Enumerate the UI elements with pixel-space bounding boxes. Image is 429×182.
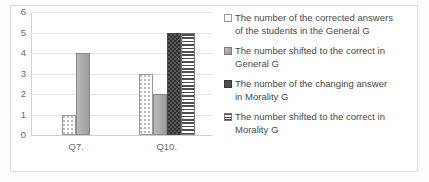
y-axis-tick-label: 0	[21, 130, 26, 140]
chart-legend: The number of the corrected answers of t…	[224, 12, 412, 144]
y-axis-tick-label: 4	[21, 48, 26, 58]
legend-label: The number shifted to the correct in Mor…	[235, 111, 385, 136]
legend-label: The number shifted to the correct in Gen…	[235, 45, 385, 70]
bar-cluster	[122, 12, 213, 135]
bar-cluster	[31, 12, 122, 135]
gridline	[31, 135, 212, 136]
legend-swatch-icon	[224, 80, 232, 88]
x-axis-tick-label: Q7.	[69, 142, 84, 152]
plot-area: 0123456	[31, 12, 212, 135]
legend-swatch-icon	[224, 113, 232, 121]
bar-solid-gray	[76, 53, 90, 135]
legend-entry: The number of the changing answer in Mor…	[224, 78, 412, 103]
y-axis-tick-label: 3	[21, 69, 26, 79]
legend-swatch-icon	[224, 47, 232, 55]
x-axis-tick-label: Q10.	[156, 142, 177, 152]
y-axis-tick-label: 1	[21, 110, 26, 120]
y-axis-tick-label: 6	[21, 7, 26, 17]
legend-entry: The number shifted to the correct in Gen…	[224, 45, 412, 70]
bar-chart-figure: 0123456 Q7.Q10. The number of the correc…	[0, 0, 429, 182]
bar-light-dotted	[139, 74, 153, 136]
legend-swatch-icon	[224, 14, 232, 22]
legend-entry: The number of the corrected answers of t…	[224, 12, 412, 37]
legend-label: The number of the changing answer in Mor…	[235, 78, 387, 103]
y-axis-tick-label: 2	[21, 89, 26, 99]
bar-solid-gray	[153, 94, 167, 135]
bars-layer	[31, 12, 212, 135]
legend-label: The number of the corrected answers of t…	[235, 12, 393, 37]
bar-light-dotted	[62, 115, 76, 136]
y-axis-tick-label: 5	[21, 28, 26, 38]
bar-horizontal-stripes	[181, 33, 195, 136]
bar-dark-dotted	[167, 33, 181, 136]
legend-entry: The number shifted to the correct in Mor…	[224, 111, 412, 136]
